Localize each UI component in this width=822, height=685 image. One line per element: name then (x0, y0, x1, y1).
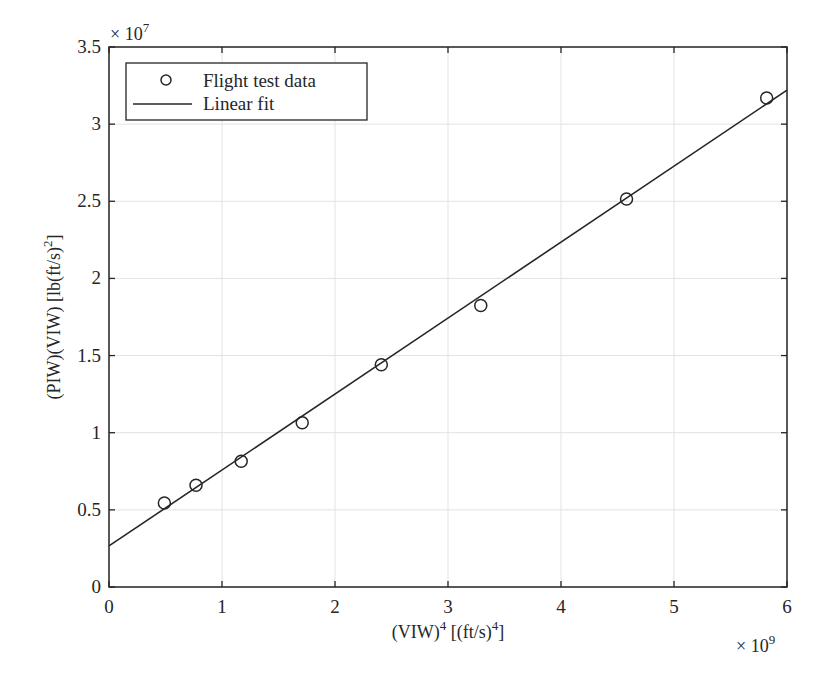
legend-label-linear-fit: Linear fit (203, 93, 275, 114)
y-tick-label: 0 (92, 576, 102, 597)
y-axis-label: (PIW)(VIW) [lb(ft/s)2] (40, 235, 65, 400)
y-tick-label: 3.5 (77, 36, 101, 57)
x-tick-label: 4 (556, 596, 566, 617)
flight-test-data-markers (158, 92, 772, 509)
data-point-marker (475, 299, 487, 311)
y-tick-label: 1 (92, 422, 102, 443)
legend: Flight test data Linear fit (126, 63, 367, 120)
x-tick-label: 0 (104, 596, 114, 617)
x-tick-label: 1 (217, 596, 227, 617)
x-tick-label: 6 (782, 596, 792, 617)
x-axis-multiplier: × 109 (736, 632, 775, 656)
data-point-marker (158, 497, 170, 509)
chart-canvas: 012345600.511.522.533.5 × 107 × 109 (VIW… (0, 0, 822, 685)
x-axis-label: (VIW)4 [(ft/s)4] (392, 618, 504, 643)
y-axis-multiplier: × 107 (110, 20, 150, 44)
x-tick-label: 5 (669, 596, 679, 617)
x-tick-label: 2 (330, 596, 340, 617)
y-tick-label: 0.5 (77, 499, 101, 520)
x-tick-label: 3 (443, 596, 453, 617)
grid-lines (109, 47, 787, 587)
y-tick-label: 2.5 (77, 190, 101, 211)
data-point-marker (761, 92, 773, 104)
y-tick-label: 3 (92, 113, 102, 134)
legend-label-flight-test-data: Flight test data (203, 70, 317, 91)
data-point-marker (296, 417, 308, 429)
y-tick-label: 1.5 (77, 345, 101, 366)
y-tick-label: 2 (92, 267, 102, 288)
